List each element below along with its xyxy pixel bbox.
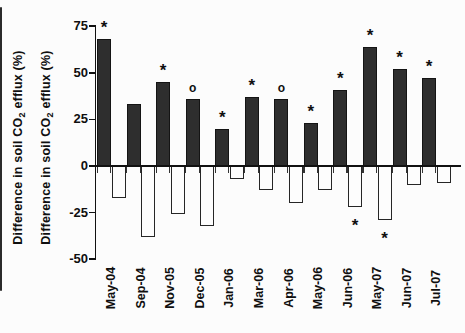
x-axis-ticklet	[317, 167, 318, 173]
significance-marker-above: *	[244, 78, 260, 94]
negative-bar	[318, 166, 332, 190]
y-axis-tick	[89, 258, 96, 260]
x-axis-tick-label: Apr-06	[282, 258, 296, 318]
x-axis-tick-label: Mar-06	[252, 258, 266, 318]
y-axis-title-text: Difference in soil CO	[39, 118, 53, 245]
x-axis-ticklet	[97, 167, 98, 173]
y-axis-tick-label: 25	[46, 111, 88, 127]
x-axis-tick-label: Dec-05	[193, 258, 207, 318]
y-axis-line	[95, 26, 97, 259]
significance-marker-above: o	[273, 82, 289, 94]
positive-bar	[127, 104, 141, 166]
x-axis-ticklet	[258, 167, 259, 173]
positive-bar	[363, 47, 377, 166]
negative-bar	[348, 166, 362, 207]
x-axis-ticklet	[346, 167, 347, 173]
x-axis-tick-label: May-07	[370, 258, 384, 318]
y-axis-tick-label: 0	[46, 158, 88, 174]
negative-bar	[141, 166, 155, 237]
x-axis-tick-label: May-04	[104, 258, 118, 318]
x-axis-tick-label: May-06	[311, 258, 325, 318]
negative-bar	[259, 166, 273, 190]
positive-bar	[186, 99, 200, 166]
x-axis-tick-label: Jun-07	[400, 258, 414, 318]
significance-marker-above: *	[362, 28, 378, 44]
negative-bar	[171, 166, 185, 214]
x-axis-ticklet	[185, 167, 186, 173]
x-axis-tick-label: Nov-05	[163, 258, 177, 318]
significance-marker-above: *	[303, 104, 319, 120]
x-axis-ticklet	[392, 167, 393, 173]
positive-bar	[274, 99, 288, 166]
y-axis-tick-label: 75	[46, 18, 88, 34]
x-axis-ticklet	[126, 167, 127, 173]
x-axis-ticklet	[199, 167, 200, 173]
y-axis-tick	[89, 25, 96, 27]
y-axis-tick-label: 50	[46, 65, 88, 81]
negative-bar	[407, 166, 421, 185]
scan-artifact-left-edge	[0, 7, 2, 291]
x-axis-ticklet	[435, 167, 436, 173]
x-axis-ticklet	[287, 167, 288, 173]
significance-marker-above: *	[96, 20, 112, 36]
positive-bar	[156, 82, 170, 166]
y-axis-title-text-suffix: efflux (%)	[11, 50, 25, 112]
x-axis-ticklet	[406, 167, 407, 173]
y-axis-title: Difference in soil CO2 efflux (%)	[11, 8, 28, 288]
x-axis-ticklet	[110, 167, 111, 173]
negative-bar	[378, 166, 392, 220]
positive-bar	[304, 123, 318, 166]
x-axis-tick-label: Jul-07	[429, 258, 443, 318]
significance-marker-above: o	[185, 82, 201, 94]
x-axis-ticklet	[362, 167, 363, 173]
x-axis-ticklet	[376, 167, 377, 173]
significance-marker-below: *	[347, 218, 363, 234]
y-axis-tick	[89, 119, 96, 121]
negative-bar	[200, 166, 214, 226]
x-axis-tick-label: Jun-06	[341, 258, 355, 318]
x-axis-ticklet	[169, 167, 170, 173]
y-axis-tick-label: -25	[46, 205, 88, 221]
significance-marker-above: *	[421, 59, 437, 75]
x-axis-ticklet	[228, 167, 229, 173]
y-axis-title-duplicate: Difference in soil CO2 efflux (%)	[39, 8, 56, 288]
positive-bar	[422, 78, 436, 166]
positive-bar	[215, 129, 229, 166]
x-axis-ticklet	[244, 167, 245, 173]
x-axis-tick-label: Jan-06	[222, 258, 236, 318]
x-axis-ticklet	[215, 167, 216, 173]
significance-marker-above: *	[214, 110, 230, 126]
positive-bar	[393, 69, 407, 166]
y-axis-title-subscript: 2	[17, 112, 27, 117]
y-axis-tick-label: -50	[46, 251, 88, 267]
x-axis-zero-line	[95, 165, 461, 167]
y-axis-tick	[89, 72, 96, 74]
significance-marker-above: *	[392, 50, 408, 66]
negative-bar	[112, 166, 126, 198]
x-axis-ticklet	[333, 167, 334, 173]
y-axis-title-text-suffix: efflux (%)	[39, 50, 53, 112]
x-axis-ticklet	[274, 167, 275, 173]
x-axis-ticklet	[140, 167, 141, 173]
x-axis-ticklet	[303, 167, 304, 173]
y-axis-tick	[89, 212, 96, 214]
positive-bar	[97, 39, 111, 166]
negative-bar	[230, 166, 244, 179]
significance-marker-below: *	[377, 231, 393, 247]
positive-bar	[245, 97, 259, 166]
significance-marker-above: *	[155, 63, 171, 79]
significance-marker-above: *	[332, 71, 348, 87]
positive-bar	[333, 90, 347, 166]
x-axis-ticklet	[156, 167, 157, 173]
soil-co2-efflux-bar-chart: Difference in soil CO2 efflux (%) Differ…	[0, 0, 465, 333]
negative-bar	[289, 166, 303, 203]
x-axis-ticklet	[422, 167, 423, 173]
x-axis-tick-label: Sep-04	[134, 258, 148, 318]
y-axis-title-text: Difference in soil CO	[11, 118, 25, 245]
negative-bar	[437, 166, 451, 183]
